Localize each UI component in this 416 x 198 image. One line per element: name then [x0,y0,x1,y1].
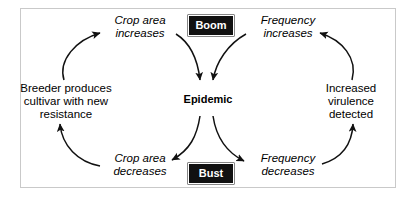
arrow-breeder-to-crop-increases [63,33,100,80]
badge-bust: Bust [188,163,234,184]
diagram-root: Crop area increases Frequency increases … [0,0,416,198]
arrow-frequency-increases-to-epidemic [213,34,246,80]
node-crop-area-increases: Crop area increases [92,14,188,40]
node-crop-area-decreases: Crop area decreases [92,152,188,178]
node-frequency-decreases: Frequency decreases [238,152,338,178]
node-breeder-produces-cultivar: Breeder produces cultivar with new resis… [12,82,120,121]
badge-boom: Boom [188,15,234,36]
node-increased-virulence-detected: Increased virulence detected [306,82,396,121]
node-frequency-increases: Frequency increases [238,14,338,40]
node-epidemic: Epidemic [168,93,248,105]
arrow-crop-increases-to-epidemic [176,34,200,80]
arrow-virulence-to-frequency-increases [320,33,353,80]
